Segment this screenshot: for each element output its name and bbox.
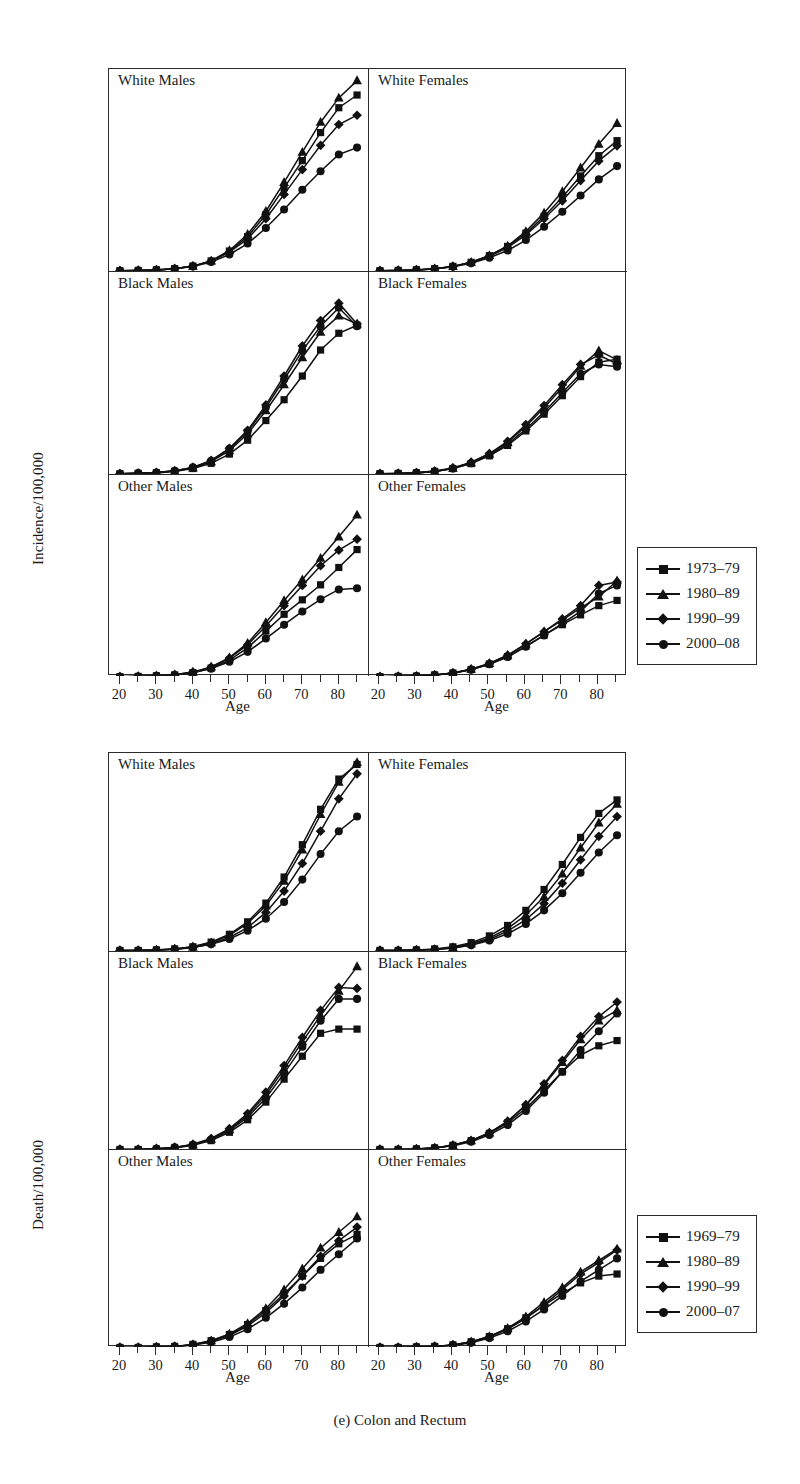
x-axis-tick xyxy=(137,675,138,682)
x-axis-tick xyxy=(506,1346,507,1353)
x-axis-tick xyxy=(615,675,616,682)
x-axis-tick xyxy=(396,675,397,682)
x-axis-tick xyxy=(451,675,452,684)
x-axis-tick xyxy=(542,1346,543,1353)
panel-white-females: White Females xyxy=(368,69,627,271)
incidence-y-axis-title: Incidence/100,000 xyxy=(30,452,47,565)
x-axis-tick xyxy=(192,1346,193,1355)
legend-item-label: 1980–89 xyxy=(686,585,740,602)
x-axis-tick xyxy=(579,1346,580,1353)
legend-marker-circle xyxy=(646,637,680,651)
incidence-chart-block: Incidence/100,000 White MalesWhite Femal… xyxy=(0,0,800,730)
x-axis-tick-label: 80 xyxy=(331,686,346,703)
figure-caption: (e) Colon and Rectum xyxy=(334,1412,467,1429)
x-axis-tick xyxy=(542,675,543,682)
x-axis-tick-label: 70 xyxy=(294,686,309,703)
death-y-axis-title: Death/100,000 xyxy=(30,1140,47,1230)
panel-black-males: Black Males xyxy=(109,271,368,473)
x-axis-tick-label: 60 xyxy=(517,1357,532,1374)
x-axis-tick xyxy=(378,1346,379,1355)
x-axis-tick xyxy=(356,675,357,682)
legend-item: 1969–79 xyxy=(646,1224,746,1249)
death-legend: 1969–791980–891990–992000–07 xyxy=(637,1215,757,1333)
x-axis-tick xyxy=(228,675,229,684)
panel-white-females: White Females xyxy=(368,753,627,951)
x-axis-tick xyxy=(137,1346,138,1353)
x-axis-tick xyxy=(338,675,339,684)
x-axis-tick-label: 70 xyxy=(553,686,568,703)
x-axis-tick-label: 20 xyxy=(371,1357,386,1374)
x-axis-tick-label: 70 xyxy=(553,1357,568,1374)
x-axis-tick xyxy=(469,675,470,682)
x-axis-tick xyxy=(155,675,156,684)
x-axis-tick xyxy=(210,1346,211,1353)
x-axis-tick xyxy=(524,675,525,684)
x-axis-tick xyxy=(174,1346,175,1353)
x-axis-tick-label: 80 xyxy=(331,1357,346,1374)
x-axis-tick xyxy=(615,1346,616,1353)
legend-marker-circle xyxy=(646,1305,680,1319)
x-axis-tick-label: 70 xyxy=(294,1357,309,1374)
x-axis-tick xyxy=(414,675,415,684)
legend-item: 1973–79 xyxy=(646,556,746,581)
x-axis-tick-label: 30 xyxy=(148,686,163,703)
legend-item-label: 1969–79 xyxy=(686,1228,740,1245)
x-axis-tick xyxy=(506,675,507,682)
x-axis-tick-label: 30 xyxy=(407,1357,422,1374)
x-axis-tick xyxy=(469,1346,470,1353)
x-axis-tick xyxy=(597,1346,598,1355)
x-axis-tick xyxy=(228,1346,229,1355)
legend-marker-square xyxy=(646,562,680,576)
x-axis-tick xyxy=(433,1346,434,1353)
x-axis-tick-label: 60 xyxy=(258,1357,273,1374)
legend-item: 2000–07 xyxy=(646,1299,746,1324)
legend-marker-triangle xyxy=(646,1255,680,1269)
x-axis-tick-label: 20 xyxy=(112,1357,127,1374)
x-axis-tick xyxy=(487,675,488,684)
legend-marker-square xyxy=(646,1230,680,1244)
figure-colon-and-rectum: Incidence/100,000 White MalesWhite Femal… xyxy=(0,0,800,1484)
x-axis-tick-label: 80 xyxy=(590,686,605,703)
x-axis-tick xyxy=(301,1346,302,1355)
x-axis-tick xyxy=(192,675,193,684)
x-axis-tick xyxy=(433,675,434,682)
x-axis-tick xyxy=(378,675,379,684)
x-axis-tick-label: 40 xyxy=(444,1357,459,1374)
x-axis-title: Age xyxy=(484,1369,509,1386)
incidence-legend: 1973–791980–891990–992000–08 xyxy=(637,547,757,665)
legend-marker-diamond xyxy=(646,612,680,626)
x-axis-tick xyxy=(155,1346,156,1355)
x-axis-tick-label: 60 xyxy=(258,686,273,703)
x-axis-tick xyxy=(247,1346,248,1353)
panel-other-females: Other Females xyxy=(368,474,627,676)
x-axis-tick xyxy=(119,1346,120,1355)
x-axis-title: Age xyxy=(225,1369,250,1386)
panel-other-females: Other Females xyxy=(368,1149,627,1347)
x-axis-tick-label: 20 xyxy=(371,686,386,703)
legend-item: 1990–99 xyxy=(646,606,746,631)
incidence-panel-grid: White MalesWhite FemalesBlack MalesBlack… xyxy=(108,68,626,675)
panel-black-females: Black Females xyxy=(368,951,627,1149)
x-axis-tick-label: 30 xyxy=(407,686,422,703)
x-axis-tick xyxy=(283,675,284,682)
x-axis-tick-label: 80 xyxy=(590,1357,605,1374)
x-axis-tick xyxy=(396,1346,397,1353)
death-panel-grid: White MalesWhite FemalesBlack MalesBlack… xyxy=(108,752,626,1346)
legend-marker-triangle xyxy=(646,587,680,601)
x-axis-tick xyxy=(487,1346,488,1355)
legend-item: 2000–08 xyxy=(646,631,746,656)
x-axis-tick xyxy=(579,675,580,682)
x-axis-tick xyxy=(414,1346,415,1355)
x-axis-tick xyxy=(174,675,175,682)
panel-other-males: Other Males xyxy=(109,474,368,676)
x-axis-tick-label: 40 xyxy=(444,686,459,703)
legend-item-label: 1973–79 xyxy=(686,560,740,577)
x-axis-tick-label: 40 xyxy=(185,686,200,703)
x-axis-tick-label: 40 xyxy=(185,1357,200,1374)
x-axis-tick xyxy=(451,1346,452,1355)
death-chart-block: Death/100,000 White MalesWhite FemalesBl… xyxy=(0,730,800,1420)
x-axis-tick xyxy=(338,1346,339,1355)
panel-other-males: Other Males xyxy=(109,1149,368,1347)
x-axis-tick xyxy=(320,1346,321,1353)
x-axis-tick xyxy=(247,675,248,682)
